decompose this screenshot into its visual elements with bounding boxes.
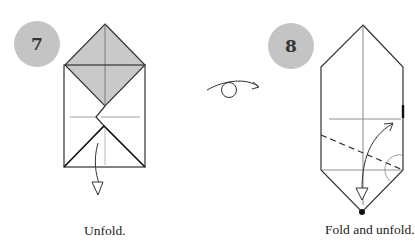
- step-8-caption: Fold and unfold.: [325, 222, 415, 238]
- turn-over-icon: [207, 81, 259, 97]
- step-7-figure: [64, 24, 145, 167]
- step-7-caption: Unfold.: [84, 223, 126, 239]
- valley-fold-dashed-line: [321, 135, 403, 170]
- bottom-flap: [64, 126, 145, 167]
- angle-arc: [385, 155, 403, 181]
- reference-point-dot: [359, 209, 365, 215]
- unfold-arrow-icon: [92, 143, 103, 195]
